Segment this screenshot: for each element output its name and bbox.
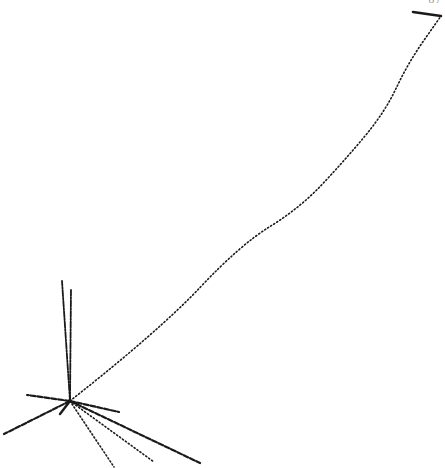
vertical-track-right [70,289,71,401]
track-drawing [0,0,445,468]
long-curved-track [70,16,441,401]
down-long-track [70,401,200,463]
vertex-point [68,399,72,403]
vertical-track-left [62,281,70,401]
arrow-head-icon [413,12,441,16]
tracks-layer [4,281,200,467]
left-lower-track [4,401,70,434]
left-upper-track [27,395,70,401]
